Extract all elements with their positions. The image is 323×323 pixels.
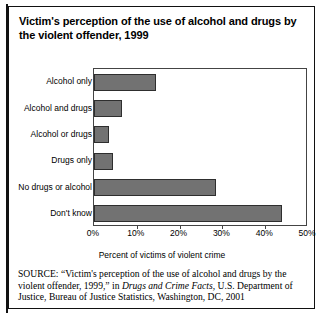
x-axis-tick-label: 30% <box>213 228 230 238</box>
x-axis-tick-label: 0% <box>87 228 99 238</box>
x-axis-title: Percent of victims of violent crime <box>14 250 310 260</box>
figure-panel: Victim's perception of the use of alcoho… <box>0 0 323 323</box>
category-label: No drugs or alcohol <box>14 182 92 192</box>
category-label: Drugs only <box>14 155 92 165</box>
x-axis-tick-label: 10% <box>127 228 144 238</box>
bar <box>94 205 282 222</box>
category-label: Alcohol only <box>14 76 92 86</box>
bar <box>94 179 216 196</box>
page-title: Victim's perception of the use of alcoho… <box>19 14 299 42</box>
category-label: Alcohol and drugs <box>14 103 92 113</box>
category-label: Alcohol or drugs <box>14 129 92 139</box>
source-note: SOURCE: “Victim's perception of the use … <box>18 268 303 303</box>
bar-chart: Alcohol onlyAlcohol and drugsAlcohol or … <box>14 68 310 244</box>
plot-area <box>93 68 307 226</box>
bar <box>94 74 156 91</box>
x-axis-tick-label: 20% <box>170 228 187 238</box>
source-keyword: SOURCE: <box>18 268 59 279</box>
bar <box>94 126 109 143</box>
x-axis-tick-label: 40% <box>256 228 273 238</box>
x-axis-tick-labels: 0%10%20%30%40%50% <box>93 228 307 242</box>
bar <box>94 100 122 117</box>
category-axis-labels: Alcohol onlyAlcohol and drugsAlcohol or … <box>14 68 92 226</box>
bar <box>94 153 113 170</box>
x-axis-tick-label: 50% <box>298 228 315 238</box>
category-label: Don't know <box>14 208 92 218</box>
source-publication-title: Drugs and Crime Facts <box>122 280 213 291</box>
